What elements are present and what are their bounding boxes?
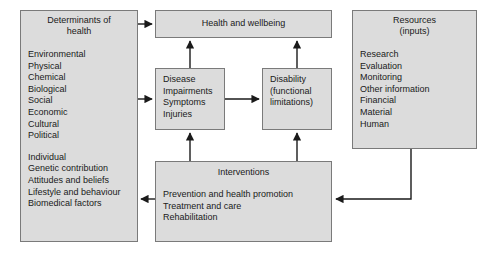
disability-body: Disability (functional limitations) bbox=[263, 69, 331, 109]
determinants-group-two: Individual Genetic contribution Attitude… bbox=[21, 142, 137, 210]
box-determinants-of-health: Determinants of health Environmental Phy… bbox=[20, 10, 138, 242]
arrow-resources-to-interventions bbox=[336, 149, 411, 199]
box-disease-impairments: Disease Impairments Symptoms Injuries bbox=[155, 68, 225, 130]
determinants-group-one: Environmental Physical Chemical Biologic… bbox=[21, 37, 137, 142]
health-title: Health and wellbeing bbox=[156, 11, 331, 29]
resources-body: Research Evaluation Monitoring Other inf… bbox=[353, 37, 476, 130]
box-interventions: Interventions Prevention and health prom… bbox=[155, 161, 332, 242]
resources-title: Resources (inputs) bbox=[353, 11, 476, 37]
box-disability: Disability (functional limitations) bbox=[262, 68, 332, 130]
interventions-title: Interventions bbox=[156, 162, 331, 178]
disease-body: Disease Impairments Symptoms Injuries bbox=[156, 69, 224, 120]
health-framework-diagram: Determinants of health Environmental Phy… bbox=[0, 0, 489, 253]
interventions-body: Prevention and health promotion Treatmen… bbox=[156, 178, 331, 224]
box-resources-inputs: Resources (inputs) Research Evaluation M… bbox=[352, 10, 477, 149]
box-health-and-wellbeing: Health and wellbeing bbox=[155, 10, 332, 38]
determinants-title: Determinants of health bbox=[21, 11, 137, 37]
